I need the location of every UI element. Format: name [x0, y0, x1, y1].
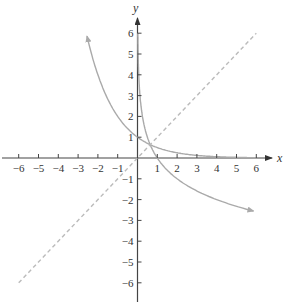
y-tick-label: 3 [128, 90, 134, 102]
x-tick-label: 6 [254, 162, 260, 174]
y-tick-label: −2 [122, 194, 134, 206]
x-tick-label: −5 [33, 162, 45, 174]
y-tick-label: 5 [128, 48, 134, 60]
x-tick-label: 4 [214, 162, 220, 174]
x-tick-label: −3 [72, 162, 84, 174]
y-tick-label: −3 [122, 214, 134, 226]
y-tick-label: −6 [122, 277, 134, 289]
logarithm-curve [138, 33, 254, 211]
y-tick-label: −1 [122, 173, 134, 185]
function-graph: −6−5−4−3−2−1123456654321−1−2−3−4−5−6 x y [0, 0, 286, 303]
y-tick-label: 4 [128, 69, 134, 81]
axes [2, 18, 272, 302]
x-tick-label: 5 [234, 162, 240, 174]
y-tick-label: 6 [128, 27, 134, 39]
x-tick-label: 2 [174, 162, 180, 174]
x-tick-label: −2 [92, 162, 104, 174]
exponential-curve [87, 36, 256, 158]
y-tick-label: −4 [122, 235, 134, 247]
x-axis-label: x [276, 151, 283, 165]
x-tick-label: −4 [52, 162, 64, 174]
x-tick-label: 3 [194, 162, 200, 174]
x-tick-label: −6 [13, 162, 25, 174]
x-tick-label: 1 [155, 162, 161, 174]
y-axis-label: y [132, 1, 139, 15]
y-tick-label: −5 [122, 256, 134, 268]
y-tick-label: 1 [128, 131, 134, 143]
y-tick-label: 2 [128, 110, 134, 122]
